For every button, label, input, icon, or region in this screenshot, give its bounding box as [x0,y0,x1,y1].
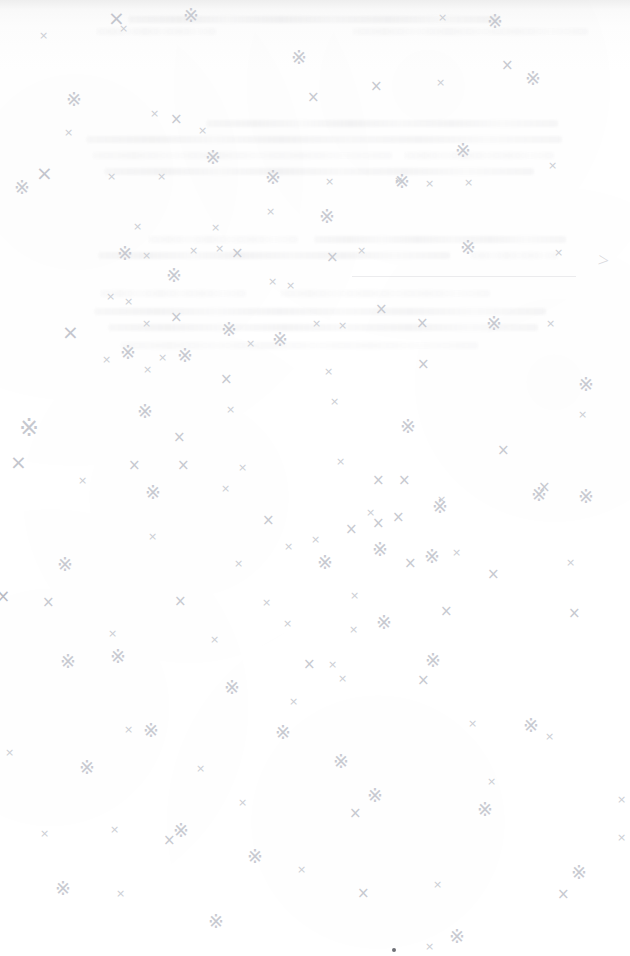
scanned-page: > ×※×××※※×××※※×××××※××※※×※××※××××※××※×××… [0,0,630,956]
left-edge-partial-mark: × [0,588,10,605]
ink-speck [392,948,396,952]
paper-grain-texture [0,0,630,956]
